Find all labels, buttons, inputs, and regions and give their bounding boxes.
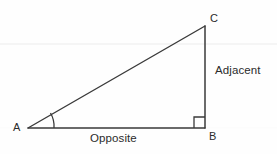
side-label-opposite: Opposite <box>90 133 137 145</box>
vertex-label-a: A <box>13 122 21 133</box>
vertex-label-b: B <box>209 131 217 142</box>
right-angle-marker-at-b <box>194 117 205 128</box>
side-hypotenuse-line <box>28 26 205 128</box>
angle-arc-at-a <box>51 113 55 128</box>
vertex-label-c: C <box>210 13 218 24</box>
right-triangle-diagram: A B C Opposite Adjacent <box>0 0 277 154</box>
side-label-adjacent: Adjacent <box>215 65 261 77</box>
triangle-drawing-canvas <box>0 0 277 154</box>
